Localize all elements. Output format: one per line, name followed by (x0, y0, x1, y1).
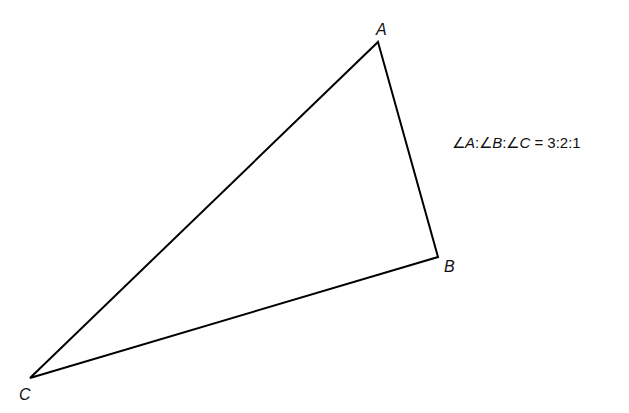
vertex-label-b: B (444, 259, 455, 275)
vertex-label-c: C (19, 387, 31, 403)
ratio-value: 3:2:1 (547, 134, 580, 151)
triangle-figure (0, 0, 629, 413)
vertex-label-a: A (376, 22, 387, 38)
angle-b-name: B (492, 134, 502, 151)
angle-icon: ∠ (506, 134, 519, 151)
angle-icon: ∠ (479, 134, 492, 151)
angle-a-name: A (465, 134, 475, 151)
angle-ratio-annotation: ∠A:∠B:∠C = 3:2:1 (452, 135, 581, 150)
triangle-abc (30, 42, 438, 378)
angle-icon: ∠ (452, 134, 465, 151)
equals-sign: = (530, 134, 547, 151)
diagram-canvas: A B C ∠A:∠B:∠C = 3:2:1 (0, 0, 629, 413)
angle-c-name: C (519, 134, 530, 151)
